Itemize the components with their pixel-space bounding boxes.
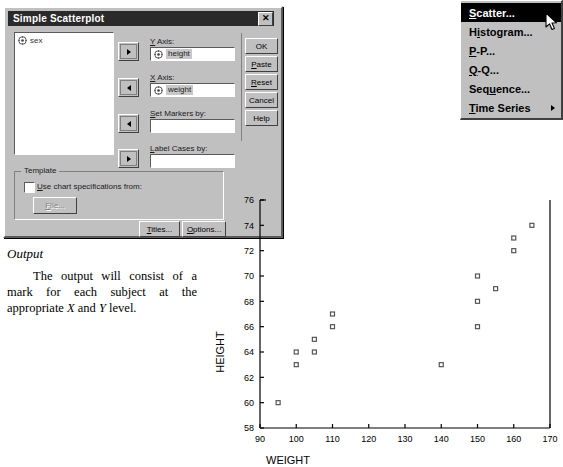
label-cases-field[interactable] [150, 154, 235, 168]
arrow-left-icon [120, 116, 137, 131]
data-point [512, 236, 516, 240]
data-point [476, 325, 480, 329]
arrow-right-icon [120, 151, 137, 166]
x-axis-value: weight [166, 85, 193, 95]
y-axis-field[interactable]: height [150, 47, 235, 61]
arrow-left-icon [120, 80, 137, 95]
move-to-x-axis-button[interactable] [118, 78, 139, 97]
x-tick-label: 170 [542, 434, 557, 444]
y-tick-label: 72 [244, 246, 254, 256]
x-axis-field[interactable]: weight [150, 83, 235, 97]
menu-item-pp[interactable]: P-P... [461, 41, 561, 60]
menu-item-sequence[interactable]: Sequence... [461, 79, 561, 98]
data-point [494, 287, 498, 291]
y-tick-label: 58 [244, 423, 254, 433]
reset-button-label: Reset [251, 78, 272, 87]
dialog-title: Simple Scatterplot [10, 13, 104, 24]
data-point [331, 312, 335, 316]
submenu-arrow-icon [551, 105, 555, 111]
x-tick-label: 90 [255, 434, 265, 444]
menu-item-time-series[interactable]: Time Series [461, 98, 561, 117]
data-point [276, 401, 280, 405]
y-tick-label: 68 [244, 297, 254, 307]
y-tick-label: 60 [244, 398, 254, 408]
y-axis-label: Y Axis: [150, 37, 174, 46]
y-tick-label: 74 [244, 221, 254, 231]
data-point [476, 274, 480, 278]
x-tick-label: 140 [434, 434, 449, 444]
data-point [294, 350, 298, 354]
cancel-button-label: Cancel [249, 96, 274, 105]
file-button[interactable]: File... [33, 197, 77, 214]
help-button[interactable]: Help [245, 110, 278, 126]
move-to-y-axis-button[interactable] [118, 42, 139, 61]
ok-button-label: OK [256, 42, 268, 51]
x-axis-label-rest: Axis: [155, 73, 174, 82]
output-paragraph: The output will consist of a mark for ea… [7, 268, 197, 316]
file-button-label: File... [45, 201, 65, 210]
set-markers-label-rest: et Markers by: [155, 109, 206, 118]
menu-item-sequence-label: Sequence... [469, 83, 530, 95]
scatterplot-svg: 5860626466687072747690100110120130140150… [210, 190, 563, 467]
menu-item-time-series-label: Time Series [469, 102, 531, 114]
x-axis-title: WEIGHT [266, 454, 310, 466]
label-cases-label-rest: abel Cases by: [154, 144, 207, 153]
y-axis-title: HEIGHT [214, 331, 226, 373]
menu-item-qq[interactable]: Q-Q... [461, 60, 561, 79]
ok-button[interactable]: OK [245, 38, 278, 54]
titles-button[interactable]: Titles... [139, 221, 180, 237]
paste-button[interactable]: Paste [245, 56, 278, 72]
x-tick-label: 160 [506, 434, 521, 444]
x-tick-label: 100 [289, 434, 304, 444]
label-cases-label: Label Cases by: [150, 144, 207, 153]
variable-name: sex [30, 36, 42, 45]
data-point [312, 350, 316, 354]
set-markers-field[interactable] [150, 119, 235, 133]
use-chart-specifications-checkbox[interactable] [24, 182, 35, 193]
paste-button-label: Paste [251, 60, 271, 69]
variable-icon [154, 50, 163, 59]
x-tick-label: 130 [397, 434, 412, 444]
help-button-label: Help [253, 114, 269, 123]
set-markers-label: Set Markers by: [150, 109, 206, 118]
y-tick-label: 64 [244, 347, 254, 357]
template-group-title: Template [21, 166, 59, 175]
y-tick-label: 70 [244, 271, 254, 281]
close-icon[interactable]: ✕ [258, 12, 273, 26]
y-tick-label: 62 [244, 373, 254, 383]
move-to-label-cases-button[interactable] [118, 149, 139, 168]
titles-button-label: Titles... [147, 225, 173, 234]
data-point [312, 337, 316, 341]
x-tick-label: 150 [470, 434, 485, 444]
move-to-set-markers-button[interactable] [118, 114, 139, 133]
source-variable-list[interactable]: sex [14, 32, 114, 155]
data-point [331, 325, 335, 329]
x-axis-label: X Axis: [150, 73, 174, 82]
output-heading: Output [7, 246, 197, 262]
data-point [476, 299, 480, 303]
output-text-block: Output The output will consist of a mark… [7, 246, 197, 316]
data-point [439, 363, 443, 367]
use-chart-specifications-label[interactable]: Use chart specifications from: [37, 182, 142, 191]
use-chart-specifications-label-rest: se chart specifications from: [43, 182, 142, 191]
y-axis-value: height [166, 49, 192, 59]
list-item[interactable]: sex [15, 33, 113, 45]
menu-item-histogram-label: Histogram... [469, 26, 533, 38]
variable-icon [18, 36, 27, 45]
cancel-button[interactable]: Cancel [245, 92, 278, 108]
y-axis-label-rest: Axis: [155, 37, 174, 46]
menu-item-pp-label: P-P... [469, 45, 495, 57]
y-tick-label: 76 [244, 195, 254, 205]
reset-button[interactable]: Reset [245, 74, 278, 90]
mouse-cursor-icon [545, 12, 559, 32]
y-tick-label: 66 [244, 322, 254, 332]
variable-icon [154, 86, 163, 95]
data-point [294, 363, 298, 367]
x-tick-label: 110 [325, 434, 339, 444]
screenshot-root: Simple Scatterplot ✕ sex [0, 0, 563, 467]
menu-item-scatter-label: Scatter... [469, 7, 515, 19]
scatterplot-chart: 5860626466687072747690100110120130140150… [210, 190, 563, 467]
dialog-titlebar[interactable]: Simple Scatterplot ✕ [8, 11, 274, 26]
menu-item-qq-label: Q-Q... [469, 64, 499, 76]
x-tick-label: 120 [361, 434, 376, 444]
